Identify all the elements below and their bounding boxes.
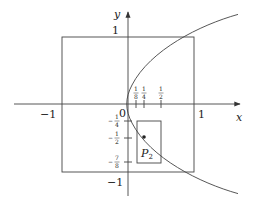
svg-text:1: 1 (142, 85, 146, 92)
diagram-canvas: y x 0 −1 1 1 −1 1 8 1 4 1 2 − 1 4 − 1 2 … (0, 0, 254, 205)
svg-text:−: − (108, 134, 113, 141)
x-one-label: 1 (198, 108, 205, 121)
y-neg-one-label: −1 (107, 176, 123, 189)
svg-text:8: 8 (134, 93, 138, 100)
y-tick-label-neg-1-2: − 1 2 (108, 130, 120, 145)
svg-text:2: 2 (159, 93, 163, 100)
svg-text:−: − (108, 158, 113, 165)
svg-text:4: 4 (142, 93, 146, 100)
point-p2-label: P2 (140, 147, 153, 161)
svg-text:4: 4 (115, 121, 119, 128)
x-neg-one-label: −1 (40, 108, 56, 121)
svg-text:7: 7 (115, 154, 119, 161)
svg-text:1: 1 (115, 113, 119, 120)
svg-text:8: 8 (115, 162, 119, 169)
svg-text:1: 1 (115, 130, 119, 137)
svg-text:−: − (108, 117, 113, 124)
svg-text:1: 1 (159, 85, 163, 92)
y-axis-label: y (113, 8, 121, 21)
y-tick-label-neg-7-8: − 7 8 (108, 154, 120, 169)
y-tick-label-neg-1-4: − 1 4 (108, 113, 120, 128)
x-tick-label-1-2: 1 2 (159, 85, 164, 100)
x-axis-label: x (236, 111, 243, 124)
origin-label: 0 (119, 107, 126, 120)
svg-text:1: 1 (134, 85, 138, 92)
x-tick-label-1-8: 1 8 (134, 85, 139, 100)
svg-text:2: 2 (115, 138, 119, 145)
x-tick-label-1-4: 1 4 (142, 85, 147, 100)
point-p2 (142, 135, 146, 139)
y-one-label: 1 (112, 24, 119, 37)
